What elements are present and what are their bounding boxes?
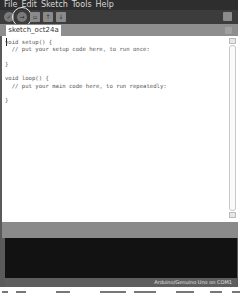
arrow-right-icon: → (19, 14, 24, 20)
taskbar-mark (176, 291, 194, 293)
taskbar-mark (134, 291, 156, 293)
arrow-up-icon: ↑ (45, 14, 50, 20)
tab-menu-button[interactable] (225, 27, 232, 34)
taskbar-mark (100, 291, 126, 293)
taskbar-strip (0, 288, 244, 297)
editor-vertical-scrollbar[interactable] (229, 38, 236, 218)
menu-help[interactable]: Help (96, 0, 114, 10)
menu-sketch[interactable]: Sketch (41, 0, 68, 10)
taskbar-mark (210, 291, 222, 293)
message-area (2, 222, 238, 238)
console-output[interactable] (5, 238, 237, 278)
open-button[interactable]: ↑ (43, 12, 53, 22)
code-editor[interactable]: void setup() { // put your setup code he… (2, 36, 238, 222)
tab-bar: sketch_oct24a (0, 24, 238, 36)
taskbar-mark (16, 291, 26, 293)
menu-bar: File Edit Sketch Tools Help (0, 0, 238, 10)
new-button[interactable]: ▫ (30, 12, 40, 22)
taskbar-mark (232, 291, 240, 293)
scroll-down-arrow-icon[interactable] (229, 212, 236, 218)
toolbar: ✓ → ▫ ↑ ↓ (0, 10, 238, 24)
code-text[interactable]: void setup() { // put your setup code he… (5, 39, 167, 105)
taskbar-mark (56, 291, 70, 293)
tab-sketch[interactable]: sketch_oct24a (6, 25, 61, 36)
arrow-down-icon: ↓ (58, 14, 63, 20)
scrollbar-track[interactable] (229, 45, 236, 211)
upload-button[interactable]: → (17, 12, 27, 22)
save-button[interactable]: ↓ (56, 12, 66, 22)
arduino-ide-window: File Edit Sketch Tools Help ✓ → ▫ ↑ ↓ sk… (0, 0, 238, 287)
board-port-label: Arduino/Genuino Uno on COM1 (154, 279, 232, 285)
new-file-icon: ▫ (33, 14, 37, 20)
taskbar-mark (2, 291, 8, 293)
checkmark-icon: ✓ (6, 14, 11, 20)
scroll-up-arrow-icon[interactable] (229, 38, 236, 44)
serial-monitor-button[interactable] (223, 12, 232, 21)
status-bar: Arduino/Genuino Uno on COM1 (5, 278, 237, 287)
menu-tools[interactable]: Tools (72, 0, 92, 10)
